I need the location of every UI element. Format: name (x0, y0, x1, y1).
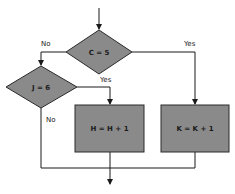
flowchart: C = 5 J = 6 H = H + 1 K = K + 1 No Yes Y… (0, 0, 235, 194)
process-h-box: H = H + 1 (75, 105, 144, 152)
decision-j-diamond: J = 6 (6, 66, 77, 108)
edge-k-out (110, 152, 195, 168)
label-c-yes: Yes (183, 40, 196, 48)
decision-c-diamond: C = 5 (66, 30, 132, 74)
edge-c-no (41, 52, 66, 65)
label-j-yes: Yes (99, 76, 112, 84)
label-c-no: No (41, 40, 51, 48)
process-k-box: K = K + 1 (161, 105, 229, 152)
process-k-label: K = K + 1 (176, 125, 213, 133)
label-j-no: No (46, 116, 56, 124)
decision-c-label: C = 5 (89, 49, 110, 57)
decision-j-label: J = 6 (31, 84, 50, 92)
edge-c-yes (132, 52, 195, 104)
edge-j-yes (77, 87, 110, 104)
process-h-label: H = H + 1 (90, 125, 128, 133)
